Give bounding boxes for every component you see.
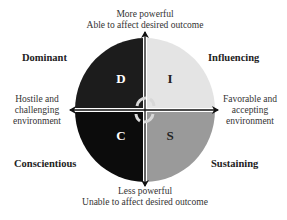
top-label: More powerful Able to affect desired out… bbox=[80, 9, 210, 31]
bottom-label: Less powerful Unable to affect desired o… bbox=[70, 186, 220, 208]
quadrant-c bbox=[75, 110, 145, 182]
quadrant-i bbox=[145, 38, 215, 110]
label-conscientious: Conscientious bbox=[14, 158, 76, 169]
letter-s: S bbox=[166, 128, 173, 143]
letter-c: C bbox=[116, 128, 125, 143]
letter-i: I bbox=[167, 71, 172, 86]
quadrant-s bbox=[145, 110, 215, 182]
label-influencing: Influencing bbox=[208, 52, 259, 63]
label-dominant: Dominant bbox=[22, 52, 67, 63]
right-label: Favorable and accepting environment bbox=[214, 94, 286, 127]
quadrant-d bbox=[75, 38, 145, 110]
letter-d: D bbox=[116, 71, 125, 86]
left-label: Hostile and challenging environment bbox=[4, 94, 70, 127]
label-sustaining: Sustaining bbox=[211, 158, 258, 169]
